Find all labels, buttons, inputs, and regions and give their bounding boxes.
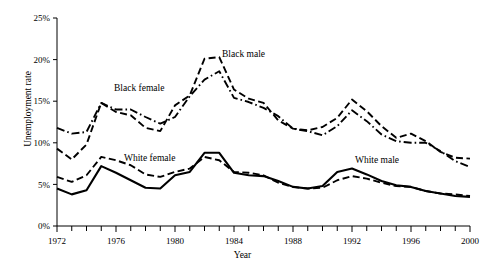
x-axis-tick-label: 1972 <box>48 236 66 246</box>
y-axis-tick-label: 15% <box>34 96 51 106</box>
x-axis-tick-label: 1996 <box>402 236 421 246</box>
y-axis-tick-label: 10% <box>34 138 51 148</box>
series-annotation-black-male: Black male <box>222 49 265 59</box>
x-axis-title-container: Year <box>0 250 485 260</box>
y-axis-tick-label: 5% <box>38 180 51 190</box>
x-axis-tick-label: 1988 <box>284 236 303 246</box>
x-axis-tick-label: 1992 <box>343 236 361 246</box>
y-axis-title-container: Unemployment rate <box>23 29 33 189</box>
unemployment-rate-line-chart: 0%5%10%15%20%25%197219761980198419881992… <box>0 0 485 267</box>
x-axis-title: Year <box>234 250 252 260</box>
x-axis-tick-label: 2000 <box>461 236 480 246</box>
y-axis-tick-label: 25% <box>34 13 51 23</box>
series-annotation-black-female: Black female <box>114 83 164 93</box>
y-axis-tick-label: 0% <box>38 221 51 231</box>
y-axis-title: Unemployment rate <box>23 71 33 147</box>
y-axis-tick-label: 20% <box>34 55 51 65</box>
series-annotation-white-male: White male <box>355 155 399 165</box>
x-axis-tick-label: 1984 <box>225 236 244 246</box>
x-axis-tick-label: 1976 <box>107 236 126 246</box>
series-annotation-white-female: White female <box>124 153 175 163</box>
chart-canvas: 0%5%10%15%20%25%197219761980198419881992… <box>0 0 485 267</box>
x-axis-tick-label: 1980 <box>166 236 185 246</box>
